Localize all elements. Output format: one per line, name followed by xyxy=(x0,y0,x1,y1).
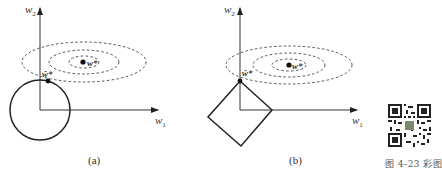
optimum-point-a xyxy=(80,59,85,64)
y-axis-label-a: w2 xyxy=(25,3,36,18)
regularized-label-a: ŵ* xyxy=(41,69,53,79)
regularized-point-b xyxy=(238,79,243,84)
caption-a: (a) xyxy=(88,154,101,167)
x-axis-label-b: w1 xyxy=(352,114,363,129)
x-axis-label-a: w1 xyxy=(155,114,166,129)
caption-b: (b) xyxy=(289,154,302,167)
optimum-label-b: w* xyxy=(292,61,303,71)
y-axis-label-b: w2 xyxy=(224,3,235,18)
optimum-label-a: w* xyxy=(87,58,98,68)
panel-b: w2 w1 w* ŵ* (b) xyxy=(208,3,363,167)
panel-a: w2 w1 w* ŵ* (a) xyxy=(10,3,166,167)
qr-code[interactable] xyxy=(388,104,431,147)
qr-caption: 图 4-23 彩图 xyxy=(385,157,442,170)
regularized-point-a xyxy=(46,79,51,84)
optimum-point-b xyxy=(286,62,291,67)
regularized-label-b: ŵ* xyxy=(241,68,253,78)
